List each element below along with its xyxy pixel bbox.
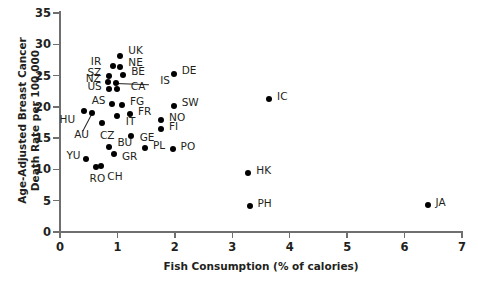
- data-point-label: US: [87, 81, 101, 92]
- x-tick-mark: [346, 232, 347, 238]
- data-point: [158, 117, 164, 123]
- data-point-label: IT: [126, 116, 136, 127]
- x-tick-mark: [117, 232, 118, 238]
- data-point-label: DE: [182, 65, 197, 76]
- data-point: [170, 146, 176, 152]
- data-point: [117, 53, 123, 59]
- y-tick-mark: [53, 231, 59, 232]
- data-point-label: UK: [128, 45, 143, 56]
- data-point-label: AU: [74, 129, 89, 140]
- data-point-label: HU: [60, 114, 76, 125]
- y-axis-title: Age-Adjusted Breast Cancer Death Rate pe…: [16, 21, 41, 221]
- data-point: [110, 63, 116, 69]
- data-point: [119, 102, 125, 108]
- x-tick-label: 6: [393, 240, 417, 254]
- x-tick-label: 1: [105, 240, 129, 254]
- data-point: [114, 113, 120, 119]
- data-point-label: FI: [169, 121, 178, 132]
- data-point-label: AS: [92, 95, 106, 106]
- y-tick-mark: [53, 200, 59, 201]
- x-tick-mark: [232, 232, 233, 238]
- y-tick-mark: [53, 106, 59, 107]
- x-tick-mark: [461, 232, 462, 238]
- data-point-label: JA: [436, 197, 446, 208]
- x-tick-label: 5: [335, 240, 359, 254]
- scatter-plot-figure: 05101520253035 01234567 Age-Adjusted Bre…: [0, 0, 478, 282]
- data-point: [171, 103, 177, 109]
- data-point-label: GR: [122, 151, 137, 162]
- data-point-label: CH: [107, 171, 122, 182]
- y-tick-mark: [53, 169, 59, 170]
- data-point-label: BE: [131, 66, 145, 77]
- y-tick-label: 0: [25, 225, 51, 239]
- data-point: [81, 108, 87, 114]
- x-tick-label: 4: [278, 240, 302, 254]
- x-tick-label: 2: [163, 240, 187, 254]
- x-tick-label: 0: [48, 240, 72, 254]
- y-tick-mark: [53, 12, 59, 13]
- x-tick-mark: [289, 232, 290, 238]
- x-axis-title: Fish Consumption (% of calories): [60, 260, 462, 272]
- x-tick-label: 3: [220, 240, 244, 254]
- data-point: [99, 120, 105, 126]
- data-point-label: YU: [66, 150, 80, 161]
- data-point: [111, 151, 117, 157]
- y-axis-title-line1: Age-Adjusted Breast Cancer: [16, 21, 29, 221]
- data-point-label: HK: [256, 165, 271, 176]
- data-point-label: PH: [258, 198, 272, 209]
- y-tick-mark: [53, 75, 59, 76]
- data-point-label: CA: [131, 81, 146, 92]
- data-point-label: FR: [138, 106, 151, 117]
- data-point: [114, 86, 120, 92]
- x-tick-mark: [404, 232, 405, 238]
- x-tick-mark: [174, 232, 175, 238]
- data-point-label: IC: [277, 91, 287, 102]
- y-tick-mark: [53, 44, 59, 45]
- data-point: [266, 96, 272, 102]
- data-point: [247, 203, 253, 209]
- data-point: [142, 145, 148, 151]
- data-point-label: SW: [182, 97, 199, 108]
- data-point-label: PO: [181, 141, 196, 152]
- data-point-label: IS: [160, 75, 170, 86]
- y-axis-title-line2: Death Rate per 100,000: [28, 21, 41, 221]
- data-point-label: RO: [90, 173, 106, 184]
- y-tick-mark: [53, 137, 59, 138]
- x-tick-mark: [59, 232, 60, 238]
- data-point-label: BU: [117, 137, 132, 148]
- data-point: [425, 202, 431, 208]
- y-tick-label: 35: [25, 6, 51, 20]
- data-point-label: PL: [153, 140, 165, 151]
- x-tick-label: 7: [450, 240, 474, 254]
- data-point-label: CZ: [100, 130, 115, 141]
